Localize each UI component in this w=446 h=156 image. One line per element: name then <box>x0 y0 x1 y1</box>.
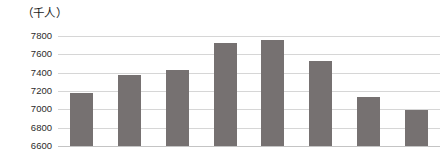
y-tick-label: 6800 <box>31 123 52 133</box>
y-tick-label: 7400 <box>31 68 52 78</box>
bar <box>261 40 284 146</box>
gridline <box>58 91 440 92</box>
bar-chart: （千人） 6600680070007200740076007800 <box>0 0 446 156</box>
gridline <box>58 109 440 110</box>
bar <box>166 70 189 146</box>
gridline <box>58 146 440 147</box>
gridline <box>58 73 440 74</box>
y-tick-label: 6600 <box>31 141 52 151</box>
gridline <box>58 128 440 129</box>
bar <box>357 97 380 147</box>
bar <box>309 61 332 146</box>
gridline <box>58 36 440 37</box>
gridline <box>58 54 440 55</box>
plot-area: 6600680070007200740076007800 <box>58 36 440 146</box>
bar <box>405 110 428 146</box>
y-tick-label: 7200 <box>31 86 52 96</box>
bar <box>214 43 237 146</box>
y-axis-unit-label: （千人） <box>22 4 67 20</box>
bar <box>118 75 141 147</box>
y-tick-label: 7600 <box>31 50 52 60</box>
y-tick-label: 7000 <box>31 105 52 115</box>
bar <box>70 93 93 146</box>
y-tick-label: 7800 <box>31 31 52 41</box>
